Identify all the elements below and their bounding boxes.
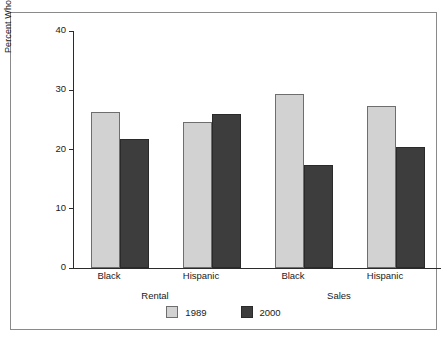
bar-1989-Hispanic-Sales [367, 106, 396, 268]
y-tick-mark-icon [69, 149, 74, 150]
legend-swatch-2000-icon [241, 306, 253, 318]
y-axis-title: Percent Who Encountered Discrimination (… [3, 0, 13, 53]
x-category-label: Black [247, 270, 339, 281]
bar-1989-Black-Sales [275, 94, 304, 268]
y-tick-mark-icon [69, 31, 74, 32]
bar-2000-Black-Rental [120, 139, 149, 268]
y-tick-label: 40 [55, 24, 66, 35]
chart-legend: 1989 2000 [0, 306, 447, 318]
x-category-label: Black [63, 270, 155, 281]
legend-entry-2000: 2000 [241, 306, 281, 318]
chart-figure: 010203040 Percent Who Encountered Discri… [0, 0, 447, 342]
bar-1989-Black-Rental [91, 112, 120, 268]
bar-2000-Hispanic-Sales [396, 147, 425, 268]
x-group-label-rental: Rental [110, 290, 200, 301]
legend-label-1989: 1989 [185, 307, 206, 318]
legend-swatch-1989-icon [166, 306, 178, 318]
plot-area: 010203040 [73, 32, 441, 269]
bar-1989-Hispanic-Rental [183, 122, 212, 268]
y-tick-mark-icon [69, 208, 74, 209]
legend-label-2000: 2000 [260, 307, 281, 318]
legend-entry-1989: 1989 [166, 306, 206, 318]
y-tick-label: 20 [55, 143, 66, 154]
x-group-label-sales: Sales [294, 290, 384, 301]
x-category-label: Hispanic [339, 270, 431, 281]
x-category-label: Hispanic [155, 270, 247, 281]
bar-2000-Black-Sales [304, 165, 333, 268]
y-tick-mark-icon [69, 90, 74, 91]
y-tick-label: 10 [55, 202, 66, 213]
chart-frame-border: 010203040 Percent Who Encountered Discri… [10, 12, 437, 330]
bar-2000-Hispanic-Rental [212, 114, 241, 268]
y-tick-mark-icon [69, 268, 74, 269]
y-tick-label: 30 [55, 83, 66, 94]
